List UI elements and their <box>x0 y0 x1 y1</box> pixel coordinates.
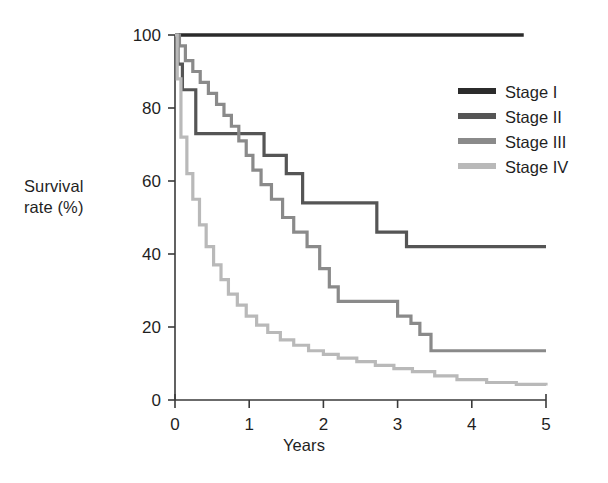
survival-chart: 020406080100012345 <box>0 0 608 483</box>
legend-label-stage-i: Stage I <box>505 83 557 102</box>
x-tick-label: 1 <box>244 415 253 434</box>
y-axis-label: Survivalrate (%) <box>24 176 84 218</box>
y-tick-label: 100 <box>133 26 161 45</box>
y-axis-label-line: Survival <box>24 176 84 197</box>
x-tick-label: 0 <box>170 415 179 434</box>
y-tick-label: 80 <box>142 99 161 118</box>
legend-label-stage-iv: Stage IV <box>505 158 568 177</box>
y-tick-label: 20 <box>142 318 161 337</box>
x-tick-label: 2 <box>319 415 328 434</box>
y-tick-label: 0 <box>152 391 161 410</box>
x-tick-label: 4 <box>467 415 476 434</box>
chart-background <box>0 0 608 483</box>
legend-label-stage-ii: Stage II <box>505 108 562 127</box>
y-tick-label: 60 <box>142 172 161 191</box>
x-tick-label: 3 <box>393 415 402 434</box>
y-axis-label-line: rate (%) <box>24 197 84 218</box>
y-tick-label: 40 <box>142 245 161 264</box>
x-axis-label: Years <box>0 436 608 455</box>
x-tick-label: 5 <box>541 415 550 434</box>
legend-label-stage-iii: Stage III <box>505 133 566 152</box>
